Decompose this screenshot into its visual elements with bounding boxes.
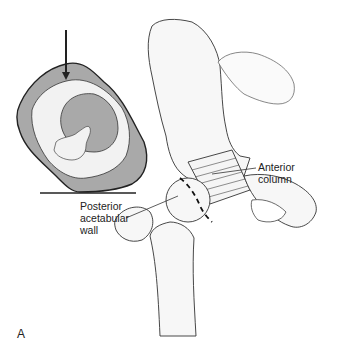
label-line: column <box>258 173 295 185</box>
label-line: Anterior <box>258 161 295 173</box>
label-line: Posterior <box>80 200 129 212</box>
posterior-acetabular-wall-label: Posterior acetabular wall <box>80 200 129 236</box>
axial-inset <box>17 30 147 193</box>
panel-letter: A <box>17 327 25 341</box>
anterior-column-label: Anterior column <box>258 161 295 185</box>
label-line: acetabular <box>80 212 129 224</box>
acetabular-fracture-illustration: Anterior column Posterior acetabular wal… <box>0 0 337 357</box>
label-line: wall <box>80 224 129 236</box>
